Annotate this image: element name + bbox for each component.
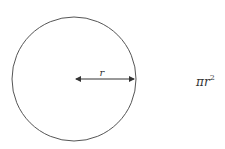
formula-exponent: 2 [210,73,215,82]
area-formula: πr2 [195,73,215,89]
formula-base: πr [195,75,211,89]
radius-label: r [100,67,106,78]
circle-area-diagram: r πr2 [0,0,225,149]
